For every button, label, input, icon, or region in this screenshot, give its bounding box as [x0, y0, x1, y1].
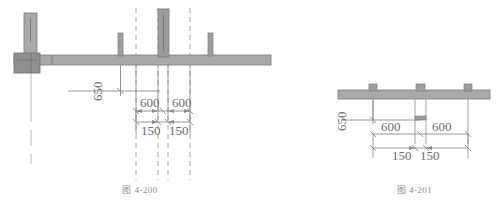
- figure-4-200: 650 600 600 150 150 图 4-200: [0, 0, 285, 215]
- dim-text-600-right-span: 600: [432, 120, 452, 133]
- dim-text-650-left: 650: [91, 82, 104, 102]
- dim-text-600-left-span: 600: [140, 96, 160, 109]
- stub-column-2: [118, 33, 123, 56]
- figure-4-200-drawing: [0, 0, 285, 180]
- figure-caption-4-200: 图 4-200: [0, 183, 280, 196]
- drawing-sheet: 650 600 600 150 150 图 4-200: [0, 0, 499, 215]
- figure-4-201-drawing: [330, 72, 499, 182]
- dim-text-650-right: 650: [335, 112, 348, 132]
- stub-block-1: [369, 84, 377, 91]
- figure-caption-4-201: 图 4-201: [330, 183, 499, 196]
- dim-text-150-left-offset: 150: [141, 124, 161, 137]
- dim-text-150-right-offset: 150: [169, 124, 189, 137]
- pier-cap-left: [14, 53, 40, 73]
- center-pad: [415, 116, 426, 120]
- stub-block-3: [464, 84, 472, 91]
- dim-text-150-right-offset: 150: [420, 149, 440, 162]
- figure-4-201: 650 600 600 150 150 图 4-201: [330, 72, 499, 215]
- dim-text-600-left-span: 600: [381, 120, 401, 133]
- stub-column-4: [208, 33, 213, 56]
- dim-text-600-right-span: 600: [172, 96, 192, 109]
- beam-horizontal: [14, 55, 271, 65]
- dim-text-150-left-offset: 150: [392, 149, 412, 162]
- stub-block-2: [416, 84, 425, 91]
